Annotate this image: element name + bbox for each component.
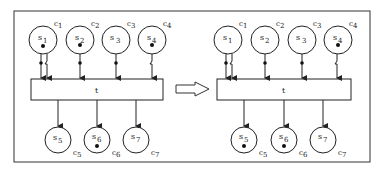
svg-text:3: 3 <box>116 37 120 45</box>
token <box>242 144 246 148</box>
token <box>282 144 286 148</box>
svg-text:1: 1 <box>228 37 232 45</box>
svg-text:s: s <box>239 132 243 141</box>
petri-net-diagram: t s 1 c 1 s 2 c 2 s <box>0 0 383 169</box>
svg-text:4: 4 <box>167 22 172 30</box>
place-s2: s 2 c 2 <box>251 20 284 78</box>
place-s2: s 2 c 2 <box>66 20 99 78</box>
place-s4: s 4 c 4 <box>138 20 172 78</box>
svg-text:6: 6 <box>284 136 289 144</box>
svg-text:s: s <box>260 33 264 42</box>
token <box>336 43 340 47</box>
svg-text:7: 7 <box>155 151 159 159</box>
svg-text:7: 7 <box>342 151 346 159</box>
place-s6: s 6 c 6 <box>271 127 308 159</box>
svg-text:s: s <box>53 133 57 142</box>
place-s5: s 5 c 5 <box>45 127 81 159</box>
svg-text:s: s <box>110 33 114 42</box>
svg-text:3: 3 <box>302 37 306 45</box>
place-s4: s 4 c 4 <box>324 20 358 78</box>
place-s3: s 3 c 3 <box>102 20 135 78</box>
svg-text:1: 1 <box>58 22 62 30</box>
svg-text:s: s <box>75 33 79 42</box>
svg-text:5: 5 <box>77 151 81 159</box>
svg-text:s: s <box>318 132 322 141</box>
svg-text:s: s <box>147 33 151 42</box>
svg-text:1: 1 <box>243 22 247 30</box>
place-s5: s 5 c 5 <box>231 127 267 159</box>
token <box>150 43 154 47</box>
svg-text:3: 3 <box>131 22 135 30</box>
svg-text:s: s <box>38 33 42 42</box>
svg-text:s: s <box>279 132 283 141</box>
svg-text:5: 5 <box>263 151 267 159</box>
token <box>41 44 45 48</box>
token <box>78 43 82 47</box>
place-s7: s 7 c 7 <box>310 127 346 159</box>
svg-text:s: s <box>92 132 96 141</box>
svg-text:7: 7 <box>323 136 327 144</box>
svg-text:1: 1 <box>43 37 47 45</box>
svg-text:6: 6 <box>116 151 121 159</box>
place-s3: s 3 c 3 <box>288 20 321 78</box>
svg-text:2: 2 <box>265 37 269 45</box>
svg-text:7: 7 <box>136 136 140 144</box>
svg-text:4: 4 <box>353 22 358 30</box>
svg-text:6: 6 <box>97 136 102 144</box>
svg-text:2: 2 <box>280 22 284 30</box>
place-s6: s 6 c 6 <box>84 127 121 159</box>
hollow-right-arrow-icon <box>176 82 209 96</box>
svg-text:2: 2 <box>95 22 99 30</box>
svg-text:6: 6 <box>303 151 308 159</box>
panel-before: t s 1 c 1 s 2 c 2 s <box>29 20 172 159</box>
svg-text:5: 5 <box>58 137 62 145</box>
svg-text:s: s <box>131 132 135 141</box>
place-s7: s 7 c 7 <box>123 127 159 159</box>
svg-text:5: 5 <box>244 136 248 144</box>
place-s1: s 1 c 1 <box>214 20 247 78</box>
place-s1: s 1 c 1 <box>29 20 62 78</box>
panel-after: t s 1 c 1 s 2 c 2 s 3 c 3 <box>214 20 358 159</box>
svg-text:s: s <box>296 33 300 42</box>
svg-text:s: s <box>333 33 337 42</box>
token <box>95 144 99 148</box>
svg-text:3: 3 <box>317 22 321 30</box>
svg-text:s: s <box>223 33 227 42</box>
